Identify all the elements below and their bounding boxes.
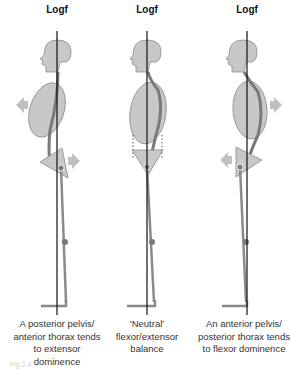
arrow-right-icon [270,97,282,113]
arrow-left-icon [16,97,28,113]
caption-neutral: 'Neutral' flexor/extensor balance [107,318,187,356]
arrow-right-icon [68,153,80,169]
caption-anterior-pelvis: An anterior pelvis/ posterior thorax ten… [196,318,291,356]
figure-caption: Fig 2.4 [10,361,31,368]
figure-neutral [126,31,170,315]
line-label-2: Logf [127,4,167,15]
line-label-3: Logf [227,4,267,15]
figure-posterior-pelvis [16,31,80,315]
figure-anterior-pelvis [220,31,282,315]
line-label-1: Logf [37,4,77,15]
head-icon [40,40,71,72]
pelvis-icon [40,148,68,178]
thorax-icon [231,80,269,140]
arrow-left-icon [220,152,232,168]
posture-figures-svg [0,0,291,370]
head-icon [130,40,161,72]
posture-diagram: Logf Logf Logf A posterior pelvis/ anter… [0,0,291,370]
head-icon [226,40,257,72]
thorax-icon [22,78,72,142]
